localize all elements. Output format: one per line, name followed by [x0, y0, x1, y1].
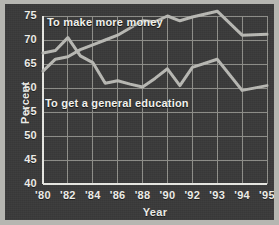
series-annotation-1: To get a general education — [45, 97, 189, 109]
x-tick-label: '95 — [251, 189, 274, 201]
y-tick-label: 75 — [9, 9, 37, 21]
chart-screenshot: 4045505560657075 '80'82'84'86'88'90'92'9… — [0, 0, 279, 225]
y-tick-label: 70 — [9, 33, 37, 45]
y-tick-label: 65 — [9, 57, 37, 69]
x-axis-title: Year — [43, 206, 267, 218]
y-tick-label: 40 — [9, 177, 37, 189]
y-tick-label: 50 — [9, 129, 37, 141]
plot-area — [5, 4, 274, 220]
chart-panel: 4045505560657075 '80'82'84'86'88'90'92'9… — [5, 4, 274, 220]
y-tick-label: 45 — [9, 153, 37, 165]
y-axis-title: Percent — [19, 82, 31, 124]
series-annotation-0: To make more money — [47, 16, 163, 28]
